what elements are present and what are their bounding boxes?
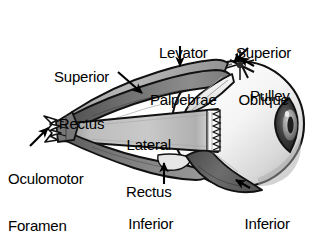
label-pulley: Pulley (250, 57, 290, 135)
label-inferior-oblique: Inferior Oblique (242, 185, 292, 231)
label-oculomotor-foramen-line1: Oculomotor (8, 171, 84, 187)
label-lateral-rectus-line1: Lateral (126, 137, 172, 153)
anatomy-figure: Superior Rectus Levator Palpebrae Superi… (0, 0, 322, 231)
label-superior-rectus-line2: Rectus (54, 116, 109, 132)
label-oculomotor-foramen-line2: Foramen (8, 218, 84, 232)
label-pulley-line1: Pulley (250, 88, 290, 104)
label-inferior-oblique-line1: Inferior (242, 216, 292, 231)
label-inferior-rectus-line1: Inferior (128, 216, 174, 231)
label-superior-rectus-line1: Superior (54, 69, 109, 85)
label-inferior-rectus: Inferior Rectus (128, 185, 174, 231)
label-oculomotor-foramen: Oculomotor Foramen (8, 140, 84, 231)
label-levator-palpebrae-line2: Palpebrae (150, 92, 217, 108)
label-levator-palpebrae-line1: Levator (150, 45, 217, 61)
